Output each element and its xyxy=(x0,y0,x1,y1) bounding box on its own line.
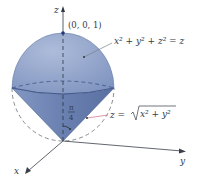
sphere-cone-diagram: z y x (0, 0, 1) x² + y² + z² = z π 4 z =… xyxy=(0,0,199,179)
angle-label-numerator: π xyxy=(69,104,74,112)
cone-equation-radicand: x² + y² xyxy=(140,109,171,119)
cone-leader-line xyxy=(87,115,108,118)
cone-equation-lhs: z = xyxy=(109,110,125,120)
top-point xyxy=(61,31,65,35)
x-axis xyxy=(28,141,63,171)
x-axis-label: x xyxy=(14,166,19,176)
y-axis-arrow-icon xyxy=(179,149,186,154)
x-axis-arrow-icon xyxy=(25,167,31,174)
sphere-equation: x² + y² + z² = z xyxy=(114,36,185,46)
z-axis-label: z xyxy=(53,5,59,15)
point-label: (0, 0, 1) xyxy=(68,20,102,30)
y-axis xyxy=(63,141,182,151)
z-axis-arrow-icon xyxy=(61,6,65,12)
angle-label-denominator: 4 xyxy=(69,114,74,122)
y-axis-label: y xyxy=(179,156,186,166)
